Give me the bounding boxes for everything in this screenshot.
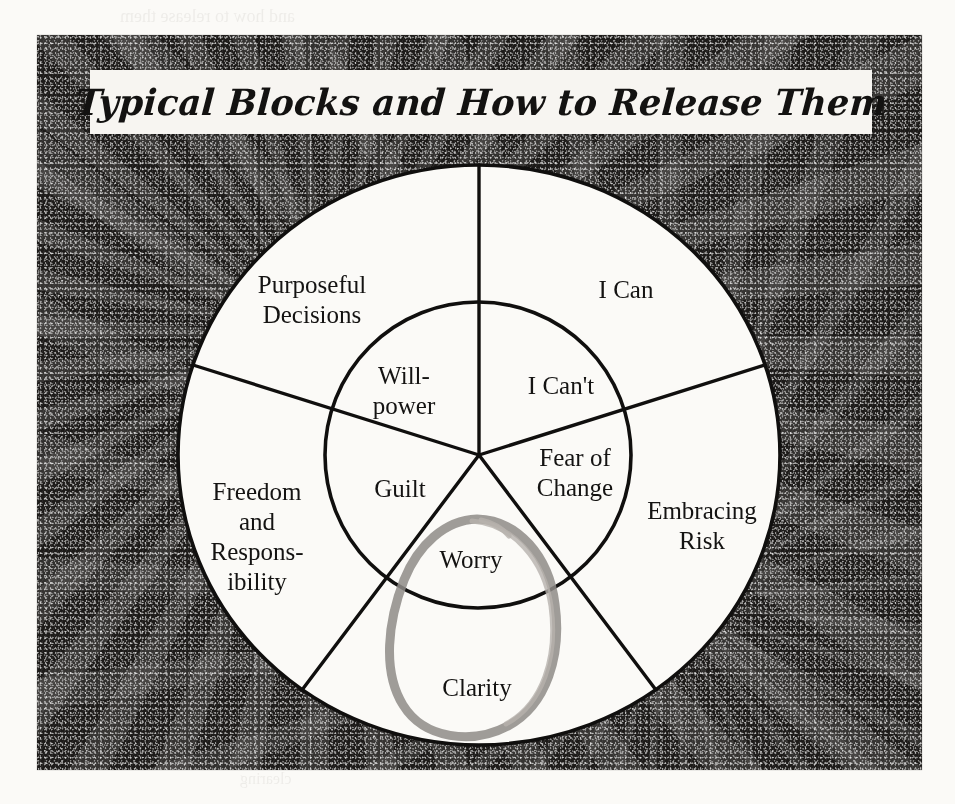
title-plaque: Typical Blocks and How to Release Them: [90, 70, 872, 134]
diagram-frame: [37, 35, 922, 770]
frame-grain-texture: [37, 35, 922, 770]
bleed-through-line: clearing: [240, 770, 292, 788]
scanned-page: and how to release thema momentresponsib…: [0, 0, 955, 804]
page-title: Typical Blocks and How to Release Them: [74, 81, 888, 123]
bleed-through-line: and how to release them: [120, 6, 295, 27]
